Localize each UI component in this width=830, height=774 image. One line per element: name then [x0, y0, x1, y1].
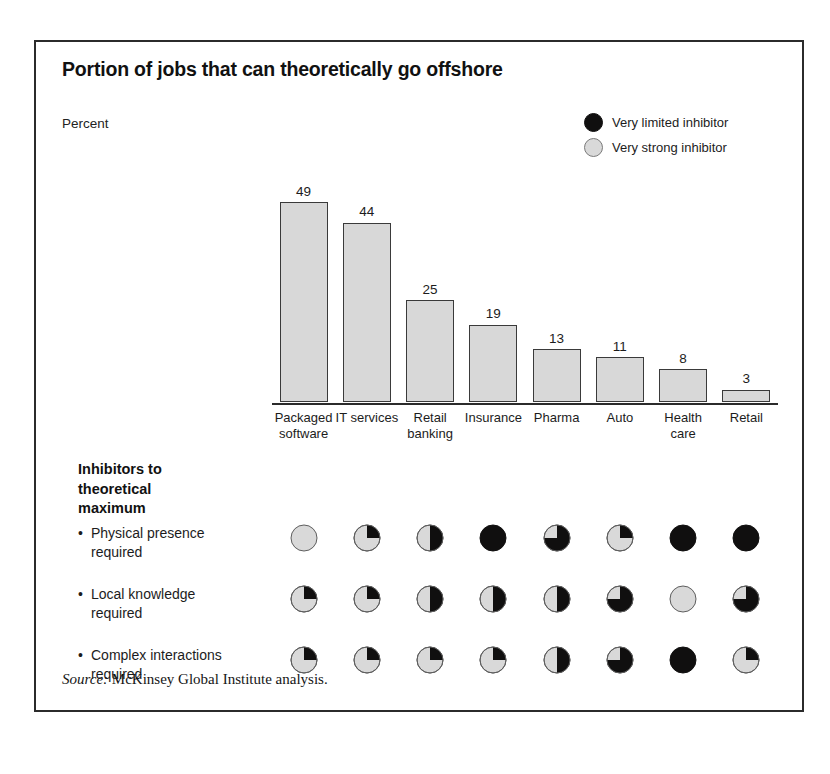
harvey-ball-cell	[652, 585, 715, 613]
harvey-ball-cell	[462, 585, 525, 613]
harvey-ball-cell	[588, 585, 651, 613]
harvey-ball-row	[272, 524, 778, 552]
harvey-ball-icon	[732, 524, 760, 552]
empty-circle-icon	[584, 138, 603, 157]
bar-rect	[280, 202, 328, 402]
bar-value-label: 19	[486, 307, 501, 321]
category-label: Insurance	[462, 410, 525, 441]
harvey-ball-cell	[525, 585, 588, 613]
harvey-ball-icon	[479, 585, 507, 613]
bar-column: 13	[525, 170, 588, 402]
source-note: Source: McKinsey Global Institute analys…	[62, 671, 328, 688]
harvey-ball-icon	[290, 524, 318, 552]
harvey-ball-icon	[606, 585, 634, 613]
inhibitor-row-label: •Local knowledgerequired	[78, 585, 278, 622]
harvey-ball-icon	[416, 585, 444, 613]
bar-column: 44	[335, 170, 398, 402]
page-title: Portion of jobs that can theoretically g…	[62, 58, 503, 81]
harvey-ball-cell	[715, 585, 778, 613]
harvey-ball-icon	[732, 646, 760, 674]
harvey-ball-icon	[543, 585, 571, 613]
harvey-ball-icon	[606, 646, 634, 674]
bar-rect	[406, 300, 454, 402]
bar-rect	[596, 357, 644, 402]
bar-rect	[659, 369, 707, 402]
x-axis-line	[272, 403, 778, 405]
source-prefix: Source:	[62, 671, 112, 687]
harvey-ball-icon	[732, 585, 760, 613]
bar-value-label: 25	[423, 283, 438, 297]
harvey-ball-icon	[669, 646, 697, 674]
harvey-ball-icon	[606, 524, 634, 552]
legend-item: Very strong inhibitor	[584, 135, 776, 160]
category-label: IT services	[335, 410, 398, 441]
harvey-ball-cell	[588, 524, 651, 552]
category-label: Retailbanking	[399, 410, 462, 441]
legend-item-label: Very limited inhibitor	[612, 115, 728, 130]
inhibitor-row-label: •Physical presencerequired	[78, 524, 278, 561]
filled-circle-icon	[584, 113, 603, 132]
bar-value-label: 8	[679, 352, 687, 366]
harvey-ball-cell	[399, 585, 462, 613]
harvey-ball-cell	[272, 524, 335, 552]
harvey-ball-icon	[416, 646, 444, 674]
legend-item-label: Very strong inhibitor	[612, 140, 727, 155]
harvey-ball-icon	[669, 585, 697, 613]
harvey-ball-cell	[652, 524, 715, 552]
bar-rect	[469, 325, 517, 402]
bar-column: 3	[715, 170, 778, 402]
harvey-ball-icon	[290, 585, 318, 613]
harvey-ball-icon	[543, 646, 571, 674]
harvey-ball-cell	[272, 646, 335, 674]
harvey-ball-icon	[669, 524, 697, 552]
bar-column: 25	[399, 170, 462, 402]
harvey-ball-icon	[353, 524, 381, 552]
inhibitor-row-label-text: Physical presencerequired	[91, 524, 278, 561]
exhibit-frame: Portion of jobs that can theoretically g…	[34, 40, 804, 712]
harvey-ball-icon	[543, 524, 571, 552]
bar-series: 49442519131183	[272, 170, 778, 402]
bar-value-label: 11	[613, 340, 627, 354]
bar-rect	[343, 223, 391, 402]
bar-chart-plot: 49442519131183	[272, 170, 778, 405]
bar-column: 11	[588, 170, 651, 402]
bullet-icon: •	[78, 524, 83, 543]
inhibitor-row: •Local knowledgerequired	[78, 585, 778, 646]
harvey-ball-cell	[335, 585, 398, 613]
bullet-icon: •	[78, 585, 83, 604]
bar-column: 49	[272, 170, 335, 402]
harvey-ball-row	[272, 585, 778, 613]
category-label: Healthcare	[652, 410, 715, 441]
inhibitors-heading: Inhibitors totheoreticalmaximum	[78, 460, 248, 519]
axis-unit-label: Percent	[62, 116, 109, 131]
harvey-ball-cell	[715, 646, 778, 674]
legend-item: Very limited inhibitor	[584, 110, 776, 135]
harvey-ball-cell	[525, 646, 588, 674]
chart-legend: Very limited inhibitorVery strong inhibi…	[584, 110, 776, 160]
bar-column: 8	[652, 170, 715, 402]
harvey-ball-cell	[588, 646, 651, 674]
source-text: McKinsey Global Institute analysis.	[112, 671, 328, 687]
bar-value-label: 13	[549, 332, 564, 346]
harvey-ball-cell	[399, 524, 462, 552]
harvey-ball-cell	[525, 524, 588, 552]
bar-rect	[722, 390, 770, 402]
harvey-ball-icon	[290, 646, 318, 674]
harvey-ball-cell	[335, 646, 398, 674]
harvey-ball-icon	[353, 585, 381, 613]
category-label: Auto	[588, 410, 651, 441]
bar-value-label: 44	[359, 205, 374, 219]
bar-column: 19	[462, 170, 525, 402]
harvey-ball-row	[272, 646, 778, 674]
harvey-ball-cell	[462, 646, 525, 674]
bar-value-label: 49	[296, 185, 311, 199]
harvey-ball-icon	[479, 646, 507, 674]
category-label: Retail	[715, 410, 778, 441]
harvey-ball-cell	[399, 646, 462, 674]
category-axis-labels: PackagedsoftwareIT servicesRetailbanking…	[272, 410, 778, 441]
harvey-ball-icon	[416, 524, 444, 552]
bar-rect	[533, 349, 581, 402]
harvey-ball-cell	[335, 524, 398, 552]
category-label: Pharma	[525, 410, 588, 441]
harvey-ball-cell	[715, 524, 778, 552]
